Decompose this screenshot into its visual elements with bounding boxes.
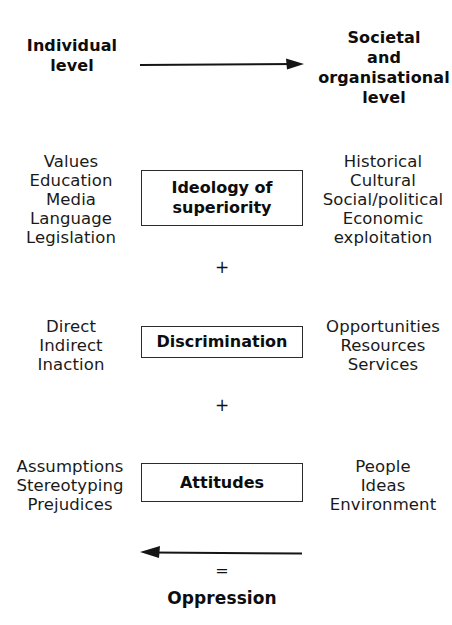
list-item: exploitation xyxy=(314,228,452,247)
list-item: Legislation xyxy=(4,228,138,247)
header-individual-level: Individual level xyxy=(6,36,138,76)
row-attitudes-right-items: People Ideas Environment xyxy=(314,457,452,514)
row-discrimination-right-items: Opportunities Resources Services xyxy=(314,317,452,374)
row-attitudes-left-items: Assumptions Stereotyping Prejudices xyxy=(2,457,138,514)
operator-plus-2: + xyxy=(202,397,242,414)
list-item: Stereotyping xyxy=(2,476,138,495)
list-item: Economic xyxy=(314,209,452,228)
list-item: Cultural xyxy=(314,171,452,190)
list-item: Ideas xyxy=(314,476,452,495)
header-right-line-3: organisational xyxy=(318,68,450,88)
diagram-canvas: Individual level Societal and organisati… xyxy=(0,0,452,625)
box-attitudes-line-1: Attitudes xyxy=(180,473,264,493)
list-item: Assumptions xyxy=(2,457,138,476)
header-right-line-4: level xyxy=(318,88,450,108)
header-right-line-2: and xyxy=(318,48,450,68)
header-right-line-1: Societal xyxy=(318,28,450,48)
header-societal-level: Societal and organisational level xyxy=(318,28,450,108)
header-left-line-2: level xyxy=(6,56,138,76)
box-ideology-of-superiority: Ideology of superiority xyxy=(141,170,303,226)
list-item: Services xyxy=(314,355,452,374)
list-item: Language xyxy=(4,209,138,228)
list-item: People xyxy=(314,457,452,476)
row-ideology-right-items: Historical Cultural Social/political Eco… xyxy=(314,152,452,247)
row-discrimination-left-items: Direct Indirect Inaction xyxy=(4,317,138,374)
box-discrimination-line-1: Discrimination xyxy=(156,332,287,352)
list-item: Direct xyxy=(4,317,138,336)
list-item: Social/political xyxy=(314,190,452,209)
list-item: Indirect xyxy=(4,336,138,355)
arrow-right-icon xyxy=(136,54,312,76)
list-item: Historical xyxy=(314,152,452,171)
row-ideology-left-items: Values Education Media Language Legislat… xyxy=(4,152,138,247)
list-item: Media xyxy=(4,190,138,209)
list-item: Education xyxy=(4,171,138,190)
box-attitudes: Attitudes xyxy=(141,463,303,502)
operator-equals: = xyxy=(202,562,242,579)
list-item: Prejudices xyxy=(2,495,138,514)
list-item: Environment xyxy=(314,495,452,514)
list-item: Values xyxy=(4,152,138,171)
operator-plus-1: + xyxy=(202,259,242,276)
box-ideology-line-2: superiority xyxy=(171,198,272,218)
header-left-line-1: Individual xyxy=(6,36,138,56)
list-item: Opportunities xyxy=(314,317,452,336)
box-discrimination: Discrimination xyxy=(141,326,303,358)
footer-label-text: Oppression xyxy=(142,588,302,608)
footer-oppression-label: Oppression xyxy=(142,588,302,608)
list-item: Inaction xyxy=(4,355,138,374)
list-item: Resources xyxy=(314,336,452,355)
box-ideology-line-1: Ideology of xyxy=(171,178,272,198)
